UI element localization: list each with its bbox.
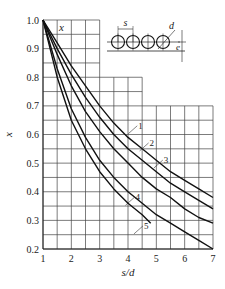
y-tick-label: 0.7: [27, 100, 40, 111]
y-tick-label: 0.2: [27, 244, 40, 255]
x-tick-label: 6: [182, 253, 187, 264]
x-tick-label: 2: [69, 253, 74, 264]
y-tick-label: 0.3: [27, 215, 40, 226]
inset-s-label: s: [124, 17, 128, 28]
y-tick-label: 0.5: [27, 158, 40, 169]
curve-label-2: 2: [150, 138, 155, 148]
curve-label-1: 1: [138, 121, 143, 131]
y-tick-label: 0.8: [27, 72, 40, 83]
dim-d-leader: [158, 30, 175, 49]
y-axis-label: x: [2, 132, 14, 138]
x-tick-label: 7: [211, 253, 216, 264]
curve-label-4: 4: [135, 192, 140, 202]
x-tick-label: 5: [154, 253, 159, 264]
x-axis-label: s/d: [122, 266, 135, 278]
y-tick-label: 0.6: [27, 129, 40, 140]
inset-e-label: e: [176, 42, 180, 52]
x-tick-label: 4: [126, 253, 131, 264]
chart: 1.00.90.80.70.60.50.40.30.21234567s/dxx1…: [0, 0, 225, 289]
y-tick-label: 0.9: [27, 43, 40, 54]
curve-label-3: 3: [164, 155, 169, 165]
curve-label-leader: [134, 226, 143, 234]
curve-label-leader: [128, 126, 137, 134]
y-tick-label: 0.4: [27, 186, 40, 197]
curve-label-5: 5: [144, 221, 149, 231]
inner-x-label: x: [58, 21, 64, 33]
x-tick-label: 1: [41, 253, 46, 264]
x-tick-label: 3: [97, 253, 102, 264]
inset-d-label: d: [169, 20, 175, 31]
y-tick-label: 1.0: [27, 15, 40, 26]
